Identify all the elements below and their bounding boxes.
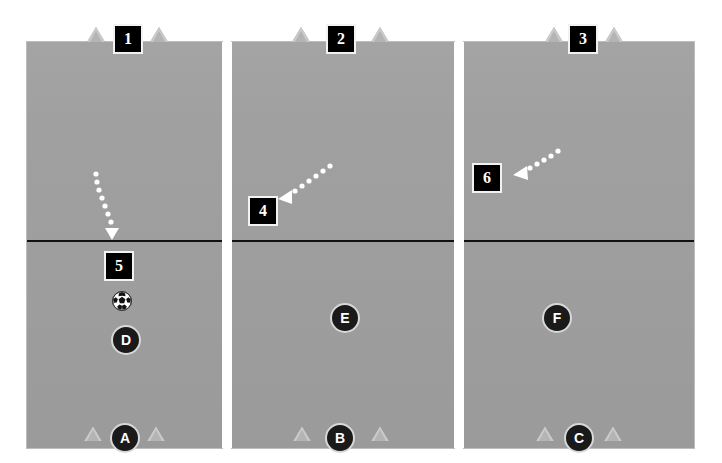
player-c[interactable]: C [564,423,594,453]
cone-top-2-left [292,27,310,42]
panel-3 [464,42,694,448]
cone-top-3-left [545,27,563,42]
panel-2 [232,42,454,448]
player-d[interactable]: D [111,325,141,355]
cone-top-1-right [150,27,168,42]
panel-1 [27,42,222,448]
panel-gutter-1 [222,42,232,448]
cone-top-1-left [87,27,105,42]
tag-6[interactable]: 6 [472,163,502,193]
cone-bottom-b-left [293,426,311,441]
tag-3[interactable]: 3 [568,24,598,54]
cone-bottom-c-right [604,426,622,441]
diagram-canvas: 1 2 3 5 D [0,0,722,463]
tag-4[interactable]: 4 [248,196,278,226]
player-b[interactable]: B [325,423,355,453]
soccer-ball-icon [112,291,132,311]
tag-1[interactable]: 1 [113,24,143,54]
player-f[interactable]: F [542,303,572,333]
halfway-line [27,240,694,242]
tag-2[interactable]: 2 [326,24,356,54]
cone-bottom-a-left [84,426,102,441]
player-e[interactable]: E [330,303,360,333]
panel-gutter-2 [454,42,464,448]
player-a[interactable]: A [110,423,140,453]
cone-top-2-right [371,27,389,42]
cone-bottom-b-right [371,426,389,441]
tag-5[interactable]: 5 [104,251,134,281]
cone-bottom-c-left [536,426,554,441]
cone-bottom-a-right [147,426,165,441]
cone-top-3-right [605,27,623,42]
